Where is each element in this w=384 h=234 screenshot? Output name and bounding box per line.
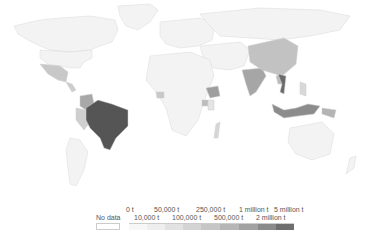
region-europe	[160, 18, 215, 48]
region-canada	[14, 16, 118, 52]
region-brazil	[86, 100, 128, 150]
legend-swatch-7	[239, 223, 258, 230]
region-south-america-south	[66, 138, 88, 186]
legend-swatch-6	[220, 223, 239, 230]
region-russia	[200, 8, 350, 40]
region-indonesia	[272, 104, 320, 118]
legend-no-data-swatch	[96, 223, 120, 230]
legend-swatch-9	[276, 223, 294, 230]
region-papua-new-guinea	[322, 108, 336, 118]
legend-threshold-500k: 500,000 t	[214, 214, 243, 221]
world-choropleth-map	[0, 0, 384, 200]
legend-threshold-0: 0 t	[126, 206, 134, 213]
legend-swatch-2	[147, 223, 165, 230]
legend-swatch-1	[129, 223, 147, 230]
region-kenya	[208, 100, 214, 110]
legend-threshold-50k: 50,000 t	[154, 206, 179, 213]
legend-no-data-label: No data	[96, 214, 121, 221]
legend-threshold-10k: 10,000 t	[134, 214, 159, 221]
legend-swatch-5	[201, 223, 220, 230]
region-central-america	[66, 82, 76, 92]
region-ivory-coast	[156, 92, 164, 98]
region-ethiopia	[206, 86, 220, 98]
legend-swatch-8	[258, 223, 276, 230]
legend-threshold-250k: 250,000 t	[196, 206, 225, 213]
region-madagascar	[214, 122, 220, 138]
legend-swatch-4	[183, 223, 201, 230]
legend-threshold-1m: 1 million t	[239, 206, 269, 213]
region-australia	[288, 122, 334, 160]
region-india	[242, 68, 266, 96]
legend-swatch-3	[165, 223, 183, 230]
region-philippines	[300, 82, 306, 96]
legend-threshold-2m: 2 million t	[256, 214, 286, 221]
region-new-zealand	[346, 156, 356, 174]
legend-threshold-5m: 5 million t	[274, 206, 304, 213]
map-legend: 0 t 50,000 t 250,000 t 1 million t 5 mil…	[96, 206, 316, 234]
legend-threshold-100k: 100,000 t	[172, 214, 201, 221]
region-greenland	[118, 4, 158, 30]
region-uganda	[202, 100, 208, 106]
